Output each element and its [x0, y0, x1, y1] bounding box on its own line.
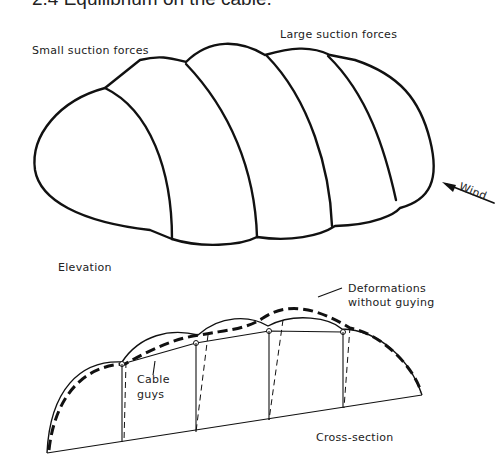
ground-line	[47, 395, 422, 453]
rib-1	[105, 88, 172, 239]
cable-guys-label-2: guys	[137, 388, 164, 401]
small-suction-label: Small suction forces	[32, 44, 149, 57]
deformation-leader	[318, 288, 342, 297]
rib-2	[186, 64, 257, 237]
guy-line-deformed	[344, 327, 350, 408]
rib-4	[328, 56, 396, 200]
elevation-outline	[34, 44, 433, 245]
guy-line-deformed	[269, 320, 283, 420]
elevation-label: Elevation	[58, 261, 112, 274]
deformation-label-2: without guying	[348, 296, 435, 309]
large-suction-label: Large suction forces	[280, 28, 397, 41]
cross-section-drawing	[47, 288, 422, 453]
guy-line-deformed	[124, 362, 126, 442]
deformation-label-1: Deformations	[348, 282, 426, 295]
arrow-head-icon	[442, 182, 456, 192]
cross-section-label: Cross-section	[316, 431, 394, 444]
diagram-canvas	[0, 0, 497, 460]
elevation-drawing	[34, 44, 433, 245]
membrane-deformed	[49, 309, 421, 450]
cable-guys-label-1: Cable	[137, 373, 170, 386]
rib-3	[267, 56, 332, 226]
guy-line-deformed	[196, 335, 208, 432]
